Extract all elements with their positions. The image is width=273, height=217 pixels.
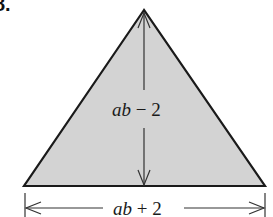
height-label-rest: − 2 <box>131 99 161 120</box>
height-label-var: ab <box>112 99 131 120</box>
base-label-rest: + 2 <box>132 198 162 217</box>
base-label-var: ab <box>113 198 132 217</box>
height-label: ab − 2 <box>112 100 161 119</box>
base-label: ab + 2 <box>113 199 162 217</box>
